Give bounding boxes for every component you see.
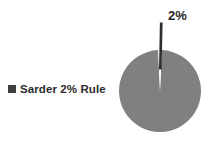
chart-legend: Sarder 2% Rule [8,83,106,95]
legend-item-label: Sarder 2% Rule [20,83,106,95]
plot-area: 2% [113,0,223,149]
legend-swatch-icon [8,85,16,93]
data-label-2-percent: 2% [168,8,187,23]
pie-chart-figure: Sarder 2% Rule 2% [0,0,223,149]
legend-item-sarder-2-percent-rule[interactable]: Sarder 2% Rule [8,83,106,95]
